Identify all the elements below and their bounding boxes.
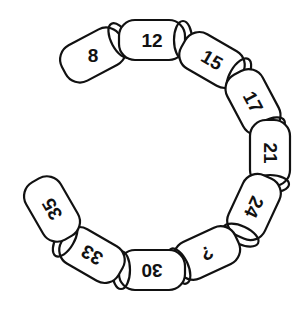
number-chain-puzzle: 81215172124?303335 bbox=[0, 0, 307, 317]
link-number: 21 bbox=[260, 142, 281, 164]
link-number: 12 bbox=[141, 30, 162, 51]
link-number: 8 bbox=[88, 45, 99, 66]
link-number: 30 bbox=[141, 260, 162, 281]
